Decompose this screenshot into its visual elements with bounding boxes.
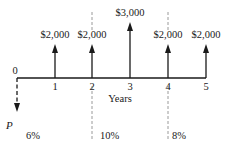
amount-year-3: $3,000 xyxy=(116,8,145,19)
tick-2: 2 xyxy=(89,82,94,93)
tick-5: 5 xyxy=(203,82,208,93)
tick-3: 3 xyxy=(127,82,132,93)
rate-value: 8% xyxy=(172,130,229,142)
present-value-label: P xyxy=(6,120,13,131)
arrow-head-icon xyxy=(127,22,133,31)
tick-0: 0 xyxy=(12,66,17,77)
rate-period-2: 10% Compounded quarterly xyxy=(100,106,157,154)
arrow-head-icon xyxy=(52,44,58,53)
amount-year-4: $2,000 xyxy=(154,30,183,41)
tick-4: 4 xyxy=(165,82,170,93)
arrow-head-icon xyxy=(203,44,209,53)
amount-year-5: $2,000 xyxy=(192,30,221,41)
axis-label-years: Years xyxy=(108,94,131,105)
arrow-head-icon xyxy=(165,44,171,53)
rate-period-3: 8% Compounded quarterly xyxy=(172,106,229,154)
cash-flow-diagram: $2,000 $2,000 $3,000 $2,000 $2,000 0 1 2… xyxy=(0,0,246,154)
arrow-head-icon xyxy=(89,44,95,53)
rate-value: 6% xyxy=(26,130,83,142)
rate-value: 10% xyxy=(100,130,157,142)
down-arrow-head-icon xyxy=(14,103,20,112)
rate-period-1: 6% Compounded quarterly xyxy=(26,106,83,154)
amount-year-2: $2,000 xyxy=(78,30,107,41)
tick-1: 1 xyxy=(52,82,57,93)
amount-year-1: $2,000 xyxy=(41,30,70,41)
